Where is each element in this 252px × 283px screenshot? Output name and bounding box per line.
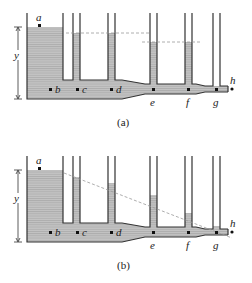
fluid-flow-diagram: y a b c d e f g h (a) (0, 0, 252, 283)
label-f: f (186, 96, 191, 108)
label-e: e (150, 239, 155, 251)
label-b: b (55, 226, 61, 238)
label-g: g (213, 96, 219, 108)
dimension-y (14, 170, 22, 242)
label-y: y (13, 192, 19, 204)
label-d: d (116, 83, 122, 95)
label-d: d (116, 226, 122, 238)
label-h: h (230, 74, 236, 86)
caption-a: (a) (117, 116, 130, 129)
panel-a: y a b c d e f g h (a) (13, 11, 236, 129)
dimension-y (14, 27, 22, 99)
label-c: c (82, 83, 87, 95)
label-b: b (55, 83, 61, 95)
label-f: f (186, 239, 191, 251)
label-c: c (82, 226, 87, 238)
caption-b: (b) (117, 259, 130, 272)
label-e: e (150, 96, 155, 108)
label-a: a (36, 154, 42, 166)
label-y: y (13, 49, 19, 61)
label-h: h (230, 217, 236, 229)
panel-b: y a b c d e f g h (b) (13, 154, 236, 272)
label-g: g (213, 239, 219, 251)
label-a: a (36, 11, 42, 23)
